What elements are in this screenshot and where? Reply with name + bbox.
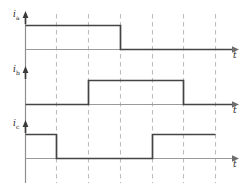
waveform-ia	[26, 26, 233, 50]
waveform-figure: ia ib ic t t t	[0, 0, 244, 189]
axis-label-time-ia: t	[233, 51, 237, 60]
axis-label-time-ib: t	[233, 106, 237, 115]
axis-label-ic-subscript: c	[16, 123, 19, 130]
arrowhead-current-ic	[23, 120, 29, 127]
arrowhead-current-ia	[23, 11, 29, 18]
axis-label-ia-subscript: a	[16, 14, 20, 21]
waveform-ib	[26, 81, 233, 105]
arrowhead-current-ib	[23, 66, 29, 73]
axis-label-ib-subscript: b	[16, 69, 20, 76]
axis-label-ic: ic	[13, 119, 19, 130]
time-axis-arrowheads	[232, 46, 239, 162]
axis-label-ib: ib	[13, 65, 20, 76]
waveform-svg	[0, 0, 244, 189]
axis-label-ia: ia	[13, 10, 19, 21]
axis-label-time-ic: t	[233, 160, 237, 169]
